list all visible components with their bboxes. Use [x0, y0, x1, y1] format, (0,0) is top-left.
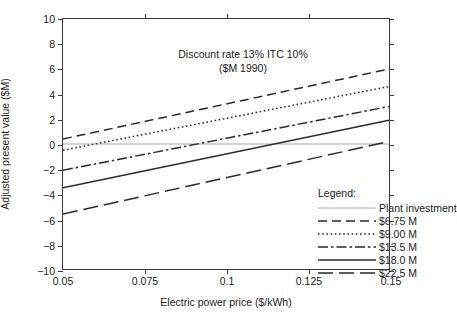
- legend-label: $13.5 M: [379, 241, 417, 253]
- legend-swatch: [318, 267, 376, 279]
- y-axis-title: Adjusted present value ($M): [0, 78, 11, 209]
- y-tick-label: 0: [49, 140, 55, 151]
- y-tick-label: −8: [43, 241, 55, 252]
- legend-item: $13.5 M: [318, 240, 457, 253]
- series-line: [63, 107, 389, 171]
- x-tick-label: 0.05: [53, 276, 73, 287]
- y-tick-label: 10: [43, 14, 55, 25]
- x-tick-label: 0.075: [132, 276, 158, 287]
- y-tick-label: 8: [49, 39, 55, 50]
- legend-label: $9.00 M: [379, 228, 417, 240]
- legend-label: $18.0 M: [379, 254, 417, 266]
- legend-label: Plant investment: [379, 202, 457, 214]
- series-line: [63, 87, 389, 151]
- y-tick-label: 6: [49, 64, 55, 75]
- x-tick: [145, 269, 146, 274]
- y-tick-right: [389, 120, 394, 121]
- y-tick-label: 2: [49, 115, 55, 126]
- y-tick-label: −4: [43, 190, 55, 201]
- x-tick: [309, 269, 310, 274]
- legend-item: $22.5 M: [318, 266, 457, 279]
- legend-label: $22.5 M: [379, 267, 417, 279]
- legend-label: $6.75 M: [379, 215, 417, 227]
- plot-area: Discount rate 13% ITC 10% ($M 1990) 1086…: [62, 18, 390, 270]
- legend-swatch: [318, 228, 376, 240]
- legend: Legend: Plant investment$6.75 M$9.00 M$1…: [318, 187, 457, 279]
- legend-swatch: [318, 254, 376, 266]
- series-line: [63, 69, 389, 139]
- y-tick-right: [389, 170, 394, 171]
- y-tick-label: −6: [43, 215, 55, 226]
- legend-title: Legend:: [318, 187, 457, 199]
- y-tick-right: [389, 19, 394, 20]
- y-tick-label: 4: [49, 89, 55, 100]
- x-axis-title: Electric power price ($/kWh): [160, 296, 291, 308]
- legend-swatch: [318, 241, 376, 253]
- y-tick-label: −2: [43, 165, 55, 176]
- legend-item: $18.0 M: [318, 253, 457, 266]
- legend-swatch: [318, 215, 376, 227]
- y-tick-right: [389, 44, 394, 45]
- y-tick: [58, 271, 63, 272]
- y-tick-right: [389, 69, 394, 70]
- x-tick: [227, 269, 228, 274]
- y-tick-right: [389, 95, 394, 96]
- legend-item: $6.75 M: [318, 214, 457, 227]
- x-tick-label: 0.1: [220, 276, 235, 287]
- legend-rows: Plant investment$6.75 M$9.00 M$13.5 M$18…: [318, 201, 457, 279]
- y-tick-right: [389, 145, 394, 146]
- legend-swatch: [318, 202, 376, 214]
- legend-item: Plant investment: [318, 201, 457, 214]
- legend-item: $9.00 M: [318, 227, 457, 240]
